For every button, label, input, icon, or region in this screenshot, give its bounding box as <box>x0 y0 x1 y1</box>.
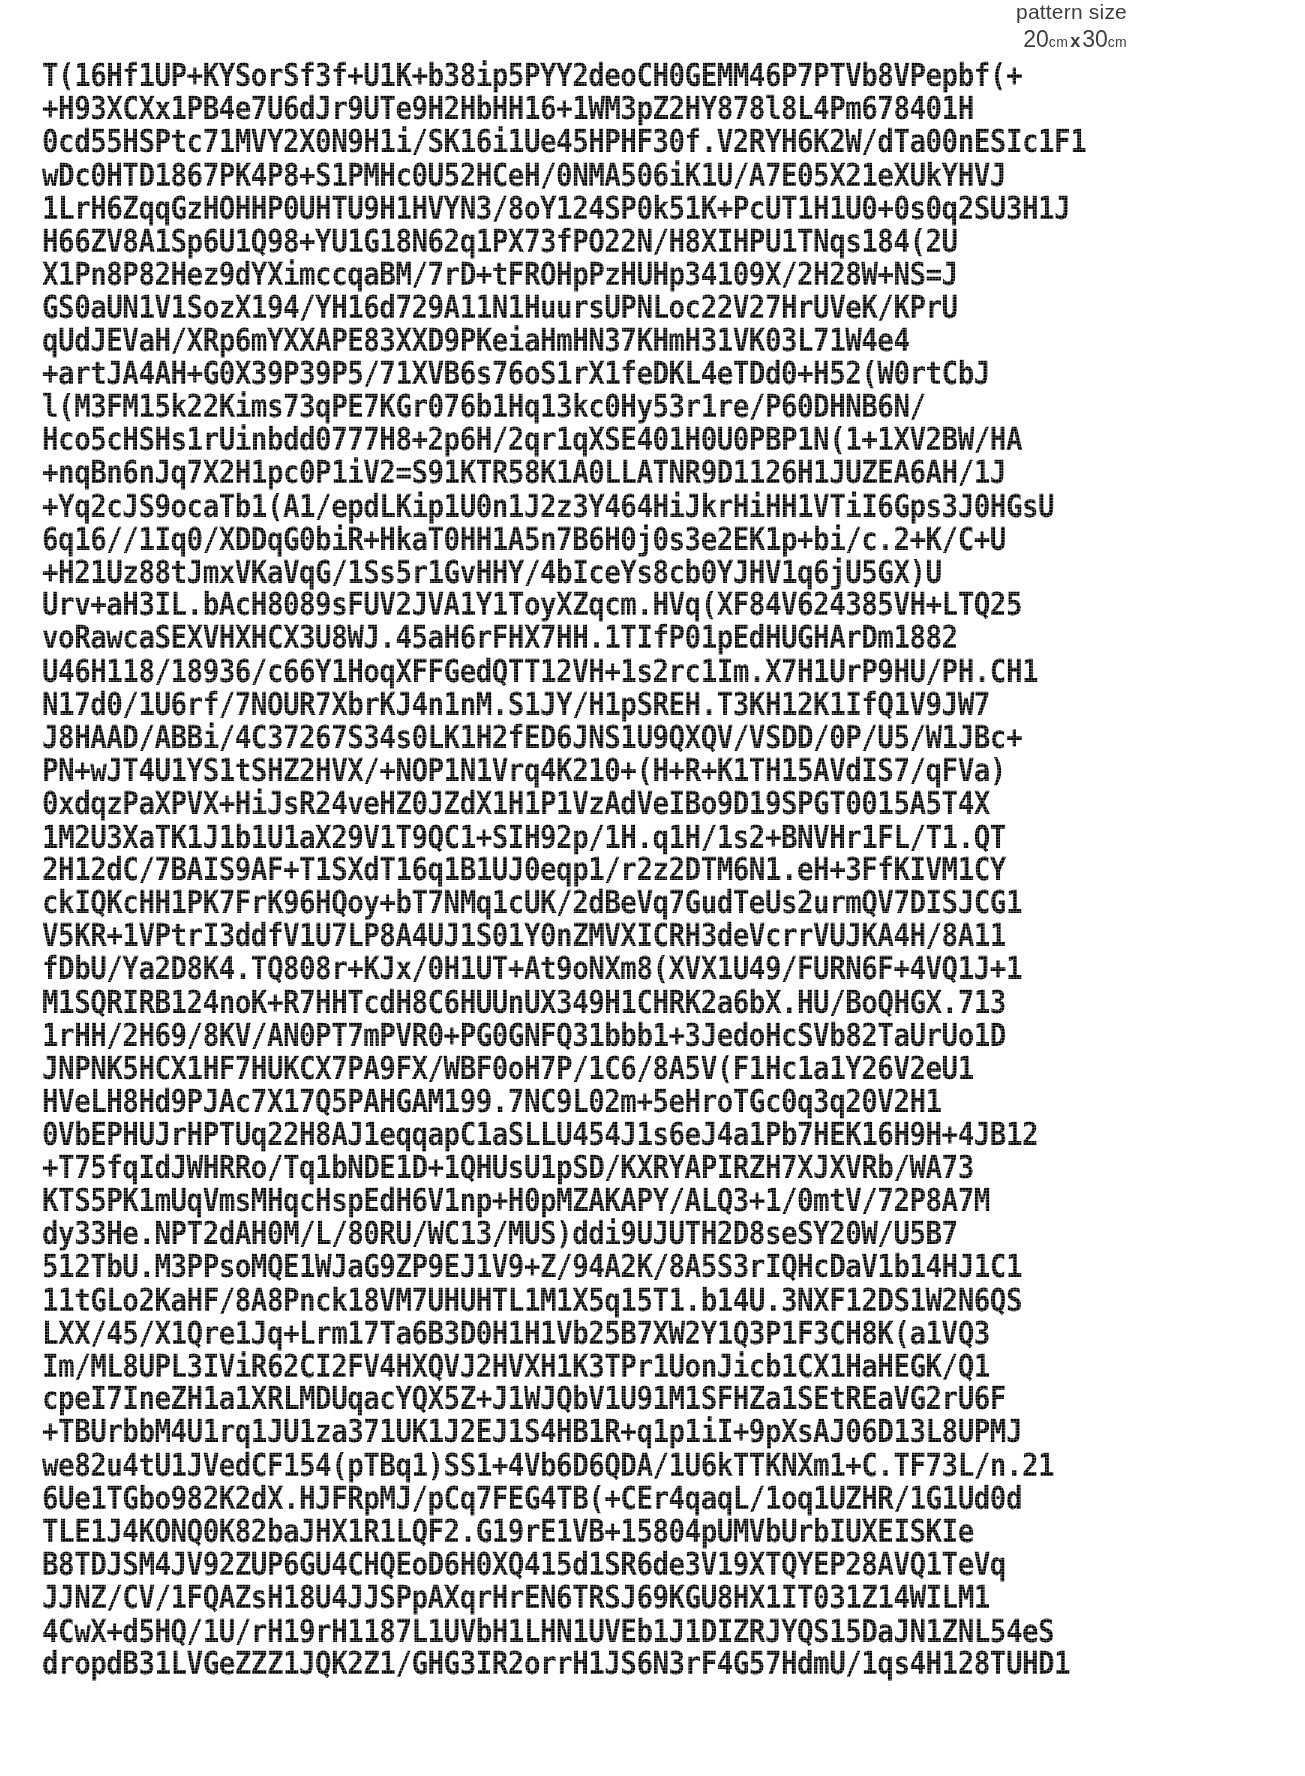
pattern-height-unit: cm <box>1108 34 1127 50</box>
pattern-width-unit: cm <box>1049 34 1068 50</box>
pattern-size-header: pattern size 20cmx30cm <box>707 0 1127 55</box>
pattern-size-label: pattern size <box>707 0 1127 24</box>
pattern-width-value: 20 <box>1023 26 1049 52</box>
pattern-dimensions: 20cmx30cm <box>707 26 1127 55</box>
pattern-data-block: T(16Hf1UP+KYSorSf3f+U1K+b38ip5PYY2deoCH0… <box>42 60 1128 1682</box>
pattern-height-value: 30 <box>1082 26 1108 52</box>
dimension-separator: x <box>1068 31 1082 51</box>
pattern-data-text: T(16Hf1UP+KYSorSf3f+U1K+b38ip5PYY2deoCH0… <box>42 60 1128 1682</box>
